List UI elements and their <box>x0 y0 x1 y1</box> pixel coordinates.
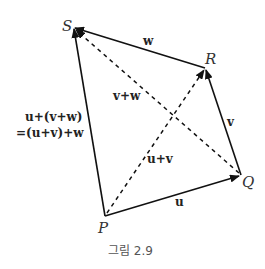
vector-u <box>105 176 239 216</box>
point-label-r: R <box>204 50 216 68</box>
vector-w <box>75 28 205 68</box>
vector-label-u-plus-v: u+v <box>147 152 174 166</box>
vector-label-u: u <box>175 195 184 209</box>
vector-label-v-plus-w: v+w <box>112 89 141 103</box>
vector-addition-diagram: S R Q P w v u v+w u+v u+(v+w) =(u+v)+w 그… <box>0 0 265 269</box>
point-label-p: P <box>97 219 109 237</box>
vector-label-sum-line1: u+(v+w) <box>25 110 83 124</box>
vector-v <box>206 70 241 175</box>
point-label-q: Q <box>242 173 254 191</box>
point-label-s: S <box>62 17 72 35</box>
figure-caption: 그림 2.9 <box>108 244 153 258</box>
vector-label-v: v <box>226 115 235 129</box>
vector-label-sum-line2: =(u+v)+w <box>16 126 84 140</box>
vector-label-w: w <box>142 34 154 48</box>
